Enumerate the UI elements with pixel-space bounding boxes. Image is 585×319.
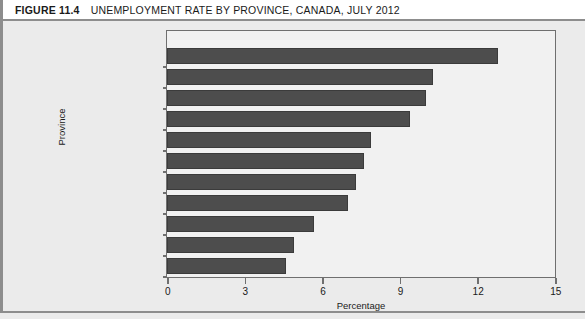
bar	[167, 216, 314, 232]
bar-row: Ontario	[167, 130, 555, 151]
y-axis-title: Province	[56, 130, 67, 146]
bar	[167, 90, 426, 106]
bar-row: Nova Scotia	[167, 109, 555, 130]
x-axis-tick-label: 3	[243, 286, 249, 297]
x-axis-tick	[322, 278, 324, 284]
bar	[167, 48, 498, 64]
bar-row: British Columbia	[167, 193, 555, 214]
bars-container: Newfoundland and LabradorPrince Edward I…	[167, 31, 555, 277]
bar-row: Prince Edward Island	[167, 67, 555, 88]
x-axis-title: Percentage	[166, 300, 556, 311]
x-axis: 03691215	[166, 278, 556, 284]
bottom-divider	[0, 311, 585, 313]
bar-row: Quebec	[167, 151, 555, 172]
figure-title-bar: FIGURE 11.4 UNEMPLOYMENT RATE BY PROVINC…	[0, 0, 585, 21]
figure-title-label: UNEMPLOYMENT RATE BY PROVINCE, CANADA, J…	[91, 4, 400, 16]
x-axis-tick	[400, 278, 402, 284]
bar-row: Alberta	[167, 256, 555, 277]
bar	[167, 237, 294, 253]
x-axis-tick-label: 12	[473, 286, 484, 297]
figure-container: FIGURE 11.4 UNEMPLOYMENT RATE BY PROVINC…	[0, 0, 585, 319]
bar	[167, 195, 348, 211]
bar	[167, 153, 364, 169]
bar	[167, 69, 433, 85]
figure-number-label: FIGURE 11.4	[15, 4, 80, 16]
bar-row: Saskatchewan	[167, 235, 555, 256]
x-axis-tick-label: 9	[398, 286, 404, 297]
x-axis-tick-label: 15	[550, 286, 561, 297]
bar	[167, 132, 371, 148]
bar	[167, 111, 410, 127]
plot-area: Newfoundland and LabradorPrince Edward I…	[166, 30, 556, 278]
bar	[167, 174, 356, 190]
bar	[167, 258, 286, 274]
x-axis-tick	[167, 278, 169, 284]
bar-row: Manitoba	[167, 214, 555, 235]
bar-row: New Brunswick	[167, 88, 555, 109]
x-axis-tick-label: 6	[320, 286, 326, 297]
x-axis-tick	[245, 278, 247, 284]
bar-row: Newfoundland and Labrador	[167, 46, 555, 67]
x-axis-tick	[555, 278, 557, 284]
bar-row: Canada	[167, 172, 555, 193]
x-axis-tick	[477, 278, 479, 284]
x-axis-tick-label: 0	[165, 286, 171, 297]
